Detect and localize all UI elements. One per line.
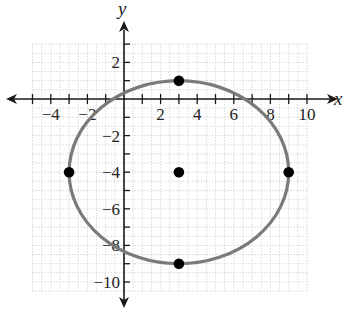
x-tick-label: 4 [193,105,202,124]
data-point [174,167,185,178]
data-point [174,258,185,269]
y-tick-label: −6 [102,200,120,219]
x-tick-label: −4 [42,105,61,124]
x-tick-label: 6 [230,105,239,124]
x-tick-label: 10 [299,105,316,124]
y-axis-title: y [116,0,127,19]
y-tick-label: 2 [112,53,121,72]
y-tick-label: −2 [102,127,120,146]
y-tick-label: −4 [102,163,121,182]
y-tick-label: −10 [93,273,120,292]
x-axis-title: x [333,88,343,109]
ellipse-graph: −4−22468102−2−4−6−8−10 x y [0,0,347,318]
x-tick-label: 2 [156,105,165,124]
data-point [283,167,294,178]
data-point [64,167,75,178]
data-point [174,75,185,86]
